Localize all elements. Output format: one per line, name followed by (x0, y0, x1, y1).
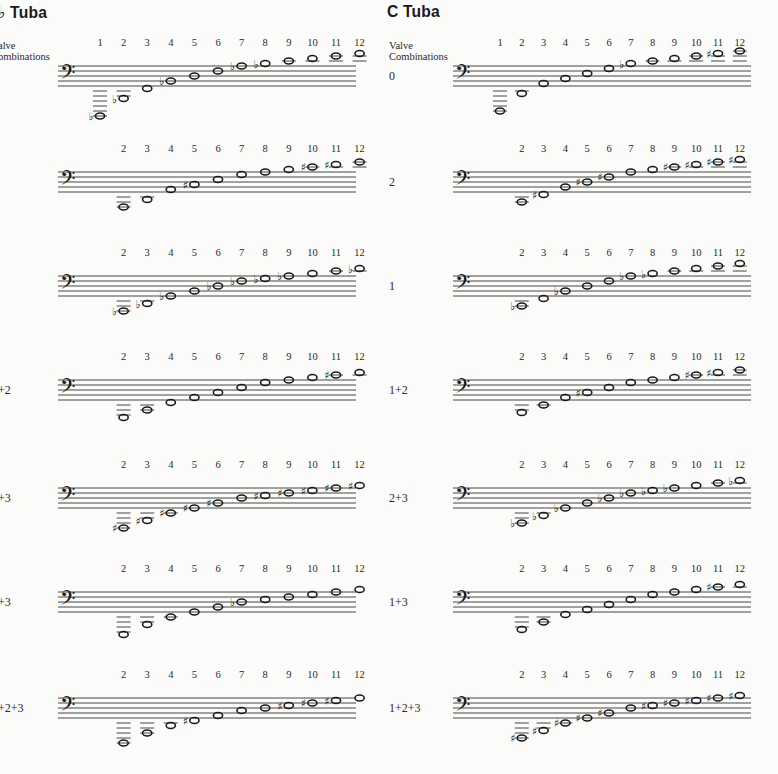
harmonic-number: 11 (331, 143, 341, 154)
harmonic-number: 2 (519, 459, 524, 470)
flat-icon: ♭ (728, 475, 733, 488)
notation-area: 𝄢1♭2♭34♭567♭8♭9101112𝄢2345♯678910♯11♯12𝄢… (0, 0, 778, 774)
harmonic-number: 8 (650, 143, 655, 154)
sharp-icon: ♯ (685, 695, 690, 708)
harmonic-number: 9 (672, 247, 677, 258)
harmonic-number: 6 (215, 669, 220, 680)
harmonic-number: 5 (585, 563, 590, 574)
harmonic-number: 1 (97, 37, 102, 48)
bb-staff-row: 𝄢1♭2♭34♭567♭8♭9101112 (58, 37, 367, 123)
sharp-icon: ♯ (324, 159, 329, 172)
sharp-icon: ♯ (576, 176, 581, 189)
sharp-icon: ♯ (663, 161, 668, 174)
sharp-icon: ♯ (277, 700, 282, 713)
flat-icon: ♭ (348, 263, 353, 276)
sharp-icon: ♯ (597, 171, 602, 184)
bass-clef-icon: 𝄢 (455, 693, 470, 721)
sharp-icon: ♯ (301, 485, 306, 498)
harmonic-number: 12 (735, 351, 746, 362)
harmonic-number: 7 (628, 351, 633, 362)
harmonic-number: 12 (354, 247, 365, 258)
whole-note-icon (517, 627, 526, 633)
sharp-icon: ♯ (348, 480, 353, 493)
harmonic-number: 12 (735, 247, 746, 258)
flat-icon: ♭ (230, 596, 235, 609)
harmonic-number: 3 (541, 247, 546, 258)
flat-icon: ♭ (206, 280, 211, 293)
harmonic-number: 5 (192, 143, 197, 154)
harmonic-number: 12 (354, 669, 365, 680)
sharp-icon: ♯ (706, 581, 711, 594)
sharp-icon: ♯ (324, 482, 329, 495)
sharp-icon: ♯ (136, 515, 141, 528)
bass-clef-icon: 𝄢 (60, 271, 75, 299)
harmonic-number: 8 (650, 351, 655, 362)
sharp-icon: ♯ (706, 367, 711, 380)
sharp-icon: ♯ (728, 690, 733, 703)
harmonic-number: 8 (263, 247, 268, 258)
bb-staff-row: 𝄢2345♯678910♯11♯12 (58, 143, 367, 210)
sharp-icon: ♯ (183, 715, 188, 728)
sharp-icon: ♯ (206, 497, 211, 510)
harmonic-number: 6 (606, 669, 611, 680)
harmonic-number: 10 (307, 563, 318, 574)
harmonic-number: 2 (121, 37, 126, 48)
harmonic-number: 3 (145, 247, 150, 258)
harmonic-number: 11 (331, 351, 341, 362)
harmonic-number: 6 (215, 459, 220, 470)
c-staff-row: 𝄢2♭34♭567♭8♭9101112 (453, 247, 751, 313)
harmonic-number: 11 (713, 247, 723, 258)
harmonic-number: 4 (563, 563, 569, 574)
harmonic-number: 11 (331, 459, 341, 470)
harmonic-number: 2 (519, 37, 524, 48)
harmonic-number: 2 (121, 459, 126, 470)
harmonic-number: 12 (735, 563, 746, 574)
harmonic-number: 10 (307, 247, 318, 258)
harmonic-number: 9 (286, 669, 291, 680)
harmonic-number: 11 (713, 563, 723, 574)
harmonic-number: 7 (239, 37, 244, 48)
bass-clef-icon: 𝄢 (455, 587, 470, 615)
harmonic-number: 2 (519, 247, 524, 258)
harmonic-number: 5 (192, 669, 197, 680)
harmonic-number: 11 (331, 247, 341, 258)
whole-note-icon (119, 632, 128, 638)
harmonic-number: 8 (650, 563, 655, 574)
harmonic-number: 10 (307, 669, 318, 680)
sharp-icon: ♯ (706, 156, 711, 169)
harmonic-number: 9 (286, 351, 291, 362)
flat-icon: ♭ (230, 60, 235, 73)
harmonic-number: 9 (672, 37, 677, 48)
flat-icon: ♭ (619, 270, 624, 283)
sharp-icon: ♯ (301, 161, 306, 174)
sharp-icon: ♯ (597, 707, 602, 720)
sharp-icon: ♯ (159, 507, 164, 520)
harmonic-number: 1 (497, 37, 502, 48)
harmonic-number: 10 (691, 143, 702, 154)
harmonic-number: 6 (215, 37, 220, 48)
harmonic-number: 10 (691, 563, 702, 574)
flat-icon: ♭ (619, 487, 624, 500)
harmonic-number: 11 (331, 669, 341, 680)
harmonic-number: 9 (672, 563, 677, 574)
harmonic-number: 12 (735, 669, 746, 680)
harmonic-number: 9 (286, 247, 291, 258)
harmonic-number: 12 (354, 563, 365, 574)
bb-staff-row: 𝄢2345♯6789♯10♯11♯12 (58, 669, 365, 746)
harmonic-number: 5 (585, 247, 590, 258)
harmonic-number: 6 (606, 351, 611, 362)
harmonic-number: 3 (541, 37, 546, 48)
harmonic-number: 12 (354, 37, 365, 48)
flat-icon: ♭ (112, 93, 117, 106)
sharp-icon: ♯ (277, 487, 282, 500)
harmonic-number: 6 (215, 351, 220, 362)
harmonic-number: 10 (691, 669, 702, 680)
harmonic-number: 12 (354, 143, 365, 154)
whole-note-icon (561, 612, 570, 618)
harmonic-number: 7 (628, 247, 633, 258)
harmonic-number: 2 (519, 669, 524, 680)
flat-icon: ♭ (159, 75, 164, 88)
bass-clef-icon: 𝄢 (60, 167, 75, 195)
harmonic-number: 8 (263, 351, 268, 362)
harmonic-number: 9 (286, 37, 291, 48)
